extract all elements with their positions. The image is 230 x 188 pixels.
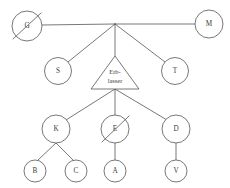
node-s[interactable]: S [45, 58, 72, 85]
node-erblasser-label-line2: lasser [108, 77, 123, 84]
node-a-label: A [112, 167, 118, 175]
node-m[interactable]: M [195, 10, 223, 38]
edge-erblasser-to-d [115, 89, 167, 120]
edge-erblasser-to-k [66, 89, 115, 120]
node-b-label: B [33, 167, 38, 175]
node-c[interactable]: C [65, 160, 87, 182]
node-t[interactable]: T [162, 58, 189, 85]
node-v-label: V [173, 167, 179, 175]
node-erblasser[interactable]: Erb- lasser [91, 56, 139, 89]
edge-junction-to-s [68, 24, 115, 62]
node-erblasser-label-line1: Erb- [109, 68, 120, 75]
node-a[interactable]: A [104, 160, 126, 182]
node-d[interactable]: D [162, 115, 190, 143]
edge-k-to-c [56, 143, 74, 161]
edge-g-to-junction [42, 24, 115, 25]
node-s-label: S [56, 67, 60, 75]
node-v[interactable]: V [165, 160, 187, 182]
node-c-label: C [74, 167, 79, 175]
node-m-label: M [206, 20, 213, 28]
node-k-label: K [53, 125, 59, 133]
node-b[interactable]: B [24, 160, 46, 182]
edge-k-to-b [37, 143, 56, 161]
diagram-canvas: G M S Erb- lasser T K E [0, 0, 230, 188]
node-e[interactable]: E [101, 115, 129, 143]
node-t-label: T [173, 67, 178, 75]
node-d-label: D [173, 125, 178, 133]
node-g[interactable]: G [12, 11, 42, 41]
edge-junction-to-t [115, 24, 165, 62]
node-k[interactable]: K [42, 115, 70, 143]
inheritance-tree-diagram: G M S Erb- lasser T K E [0, 0, 230, 188]
